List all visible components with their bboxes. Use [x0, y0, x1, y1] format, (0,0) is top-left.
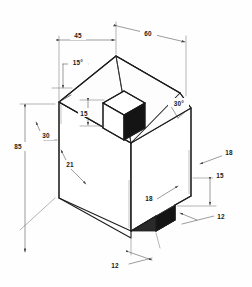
dim-label-12-front: 12 — [111, 262, 119, 269]
dim-left-height: 85 — [10, 104, 55, 252]
dim-left-offset: 30 — [36, 122, 57, 140]
dim-notch-width-right: 12 — [180, 211, 229, 224]
solid-body — [59, 56, 191, 238]
dim-right-upper-depth: 18 — [200, 147, 237, 164]
dim-label-12-right: 12 — [217, 213, 225, 220]
dim-label-15-boss: 15 — [80, 110, 88, 117]
dim-label-85: 85 — [14, 143, 22, 150]
dim-label-15deg: 15° — [73, 59, 84, 66]
isometric-drawing-svg: 45 60 85 15 — [0, 0, 252, 287]
dim-label-18-inner: 18 — [145, 195, 153, 202]
dim-notch-width-front: 12 — [108, 233, 160, 269]
technical-drawing-canvas: 45 60 85 15 — [0, 0, 252, 287]
dim-label-21: 21 — [66, 161, 74, 168]
dim-label-15-notch: 15 — [216, 172, 224, 179]
dim-label-18-upper: 18 — [225, 149, 233, 156]
dim-label-30: 30 — [42, 132, 50, 139]
dim-label-30deg: 30° — [174, 100, 185, 107]
dim-label-60: 60 — [144, 30, 152, 37]
dim-label-45: 45 — [74, 32, 82, 39]
